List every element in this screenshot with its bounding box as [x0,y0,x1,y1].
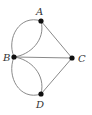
edge-b-c [14,57,72,58]
edge-b-d-outer [12,57,41,95]
node-a [38,18,43,23]
graph-diagram: A B C D [0,0,92,115]
label-a: A [35,6,43,17]
label-d: D [35,99,44,110]
edge-a-b-inner [14,21,42,57]
edge-d-c [41,58,72,94]
edge-a-b-outer [12,20,41,57]
edge-a-c [41,21,72,58]
node-d [38,91,43,96]
label-b: B [2,52,10,63]
node-c [69,55,74,60]
node-b [11,54,16,59]
label-c: C [78,53,86,64]
edges [12,20,72,95]
